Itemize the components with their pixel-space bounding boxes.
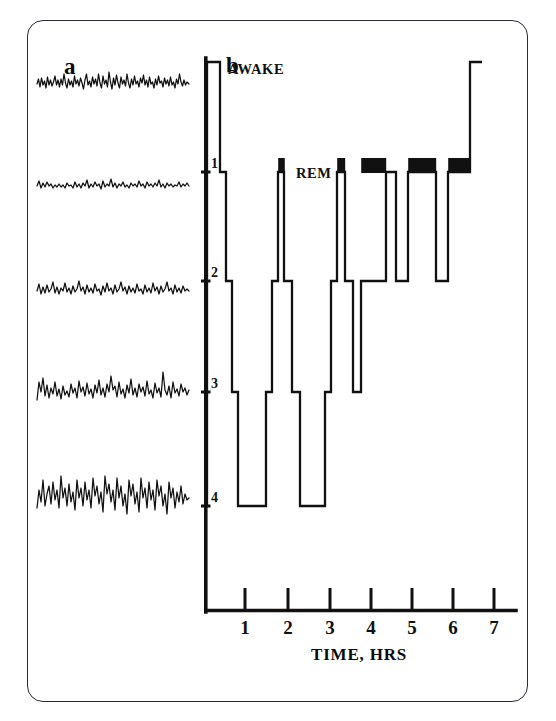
eeg-trace-stage4 (36, 468, 191, 530)
eeg-trace-awake (36, 52, 191, 114)
xtick-label-3: 3 (325, 617, 335, 638)
xtick-label-7: 7 (489, 617, 499, 638)
ytick-label-3: 3 (211, 376, 218, 391)
rem-block-5 (448, 158, 470, 173)
ytick-label-2: 2 (211, 265, 218, 280)
rem-block-2 (337, 158, 345, 173)
ytick-label-1: 1 (211, 156, 218, 171)
xtick-label-6: 6 (448, 617, 458, 638)
rem-block-4 (408, 158, 436, 173)
eeg-trace-stage2 (36, 258, 191, 320)
rem-label: REM (296, 165, 332, 181)
xtick-label-2: 2 (283, 617, 293, 638)
eeg-trace-stage1 (36, 153, 191, 215)
x-axis-title: TIME, HRS (190, 645, 528, 665)
xtick-label-5: 5 (407, 617, 417, 638)
awake-label: AWAKE (228, 61, 284, 77)
hypnogram-trace (207, 62, 482, 506)
hypnogram-svg: 1 2 3 4 1 2 3 4 5 6 7 AWAKE REM (190, 40, 528, 670)
eeg-trace-stage3 (36, 362, 191, 424)
xtick-label-1: 1 (240, 617, 250, 638)
rem-block-3 (361, 158, 386, 173)
hypnogram-chart: 1 2 3 4 1 2 3 4 5 6 7 AWAKE REM (190, 40, 528, 670)
eeg-traces-panel (30, 50, 195, 570)
rem-block-1 (278, 158, 285, 173)
xtick-label-4: 4 (366, 617, 376, 638)
ytick-label-4: 4 (211, 490, 218, 505)
